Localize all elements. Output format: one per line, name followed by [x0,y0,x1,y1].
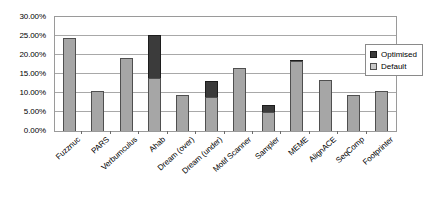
y-axis-tick-label: 10.00% [19,88,46,97]
bar[interactable] [233,68,246,131]
bar-slot [140,17,168,131]
dark-swatch-icon [370,51,377,58]
bar-segment-default [319,80,332,131]
bar-segment-default [347,95,360,131]
bar-slot [169,17,197,131]
bar-slot [254,17,282,131]
legend-item-optimised: Optimised [370,48,417,60]
bar-segment-default [120,58,133,131]
bar[interactable] [120,58,133,131]
bar-series-container [55,17,396,131]
x-axis-category-label: Footprinter [361,135,395,167]
legend-item-default: Default [370,60,417,72]
x-axis-category-label: Sampler [254,135,282,161]
bar-segment-default [148,78,161,131]
plot-area [54,16,397,132]
x-axis-category-label: MEME [286,135,310,157]
bar[interactable] [262,105,275,131]
y-axis-tick-label: 0.00% [24,126,46,135]
bar[interactable] [205,81,218,131]
y-axis-labels: 30.00% 25.00% 20.00% 15.00% 10.00% 5.00%… [0,0,50,197]
bar[interactable] [91,91,104,131]
y-axis-tick-label: 15.00% [19,69,46,78]
bar[interactable] [176,95,189,131]
bar-segment-default [375,91,388,131]
bar-segment-default [233,68,246,131]
bar[interactable] [63,38,76,131]
bar[interactable] [347,95,360,131]
x-axis-category-label: Ahab [148,135,168,154]
bar-segment-default [91,91,104,131]
bar-slot [282,17,310,131]
x-axis-category-label: PARS [89,135,110,156]
bar-segment-default [63,38,76,131]
x-axis-category-label: AlignACE [307,135,338,164]
bar-segment-default [176,95,189,131]
x-axis-labels: FuzznucPARSVerbumculusAhabDream (over)Dr… [54,131,395,197]
bar-segment-optimised [148,35,161,78]
bar-slot [197,17,225,131]
bar-slot [55,17,83,131]
y-axis-tick-label: 30.00% [19,12,46,21]
bar-segment-default [205,97,218,131]
y-axis-tick-label: 25.00% [19,31,46,40]
bar-segment-optimised [262,105,275,112]
y-axis-tick-label: 5.00% [24,107,46,116]
x-axis-category-label: Fuzznuc [54,135,82,161]
legend-label: Optimised [381,50,417,59]
bar-segment-default [290,61,303,131]
bar-slot [311,17,339,131]
y-axis-tick-label: 20.00% [19,50,46,59]
bar-slot [83,17,111,131]
bar-segment-default [262,112,275,131]
chart-legend: Optimised Default [365,44,423,76]
legend-label: Default [381,62,406,71]
bar-slot [226,17,254,131]
bar-chart: 30.00% 25.00% 20.00% 15.00% 10.00% 5.00%… [0,0,444,197]
bar[interactable] [290,60,303,131]
bar-segment-optimised [205,81,218,97]
bar[interactable] [319,80,332,131]
bar-slot [339,17,367,131]
light-swatch-icon [370,63,377,70]
bar[interactable] [148,35,161,131]
bar-slot [112,17,140,131]
bar[interactable] [375,91,388,131]
